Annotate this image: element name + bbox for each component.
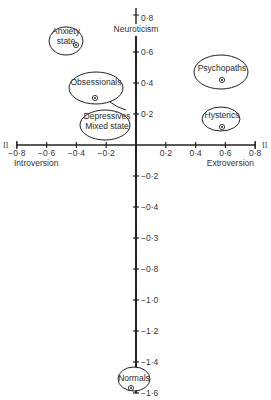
group-label: Obsessionals	[70, 77, 121, 87]
x-axis-negative-title: Introversion	[14, 158, 59, 168]
x-tick-label: 0·2	[160, 148, 173, 158]
group-anxiety-state: Anxietystate	[49, 26, 83, 55]
y-tick-label: 0·2	[141, 109, 154, 119]
x-axis-positive-title: Extroversion	[207, 158, 255, 168]
group-point-dot	[130, 387, 132, 389]
y-tick-label: −0·2	[141, 171, 159, 181]
y-tick-label: −1·0	[141, 295, 159, 305]
group-point-dot	[221, 79, 223, 81]
x-tick-label: 0·6	[219, 148, 232, 158]
group-label: state	[57, 36, 76, 46]
x-tick-label: 0·8	[249, 148, 262, 158]
y-tick-label: 0·6	[141, 47, 154, 57]
y-tick-label: −1·4	[141, 357, 159, 367]
x-tick-label: −0·8	[8, 148, 26, 158]
personality-diagram: −0·8−0·6−0·4−0·20·20·40·60·80·80·60·40·2…	[0, 0, 271, 400]
y-tick-label: 0·8	[141, 13, 154, 23]
group-label: Hysterics	[205, 110, 240, 120]
group-point-dot	[221, 126, 223, 128]
x-tick-label: −0·2	[98, 148, 116, 158]
group-label: Anxiety	[52, 26, 81, 36]
group-normals: Normals	[118, 367, 150, 391]
y-axis-title: Neuroticism	[114, 24, 159, 34]
group-point-dot	[94, 97, 96, 99]
y-tick-label: 0·4	[141, 78, 154, 88]
group-hysterics: Hysterics	[202, 107, 240, 131]
group-psychopaths: Psychopaths	[194, 55, 248, 89]
group-label: Normals	[118, 373, 150, 383]
x-tick-label: 0·4	[189, 148, 202, 158]
group-label: Depressives	[84, 111, 131, 121]
y-tick-label: −0·4	[141, 202, 159, 212]
y-tick-label: −1·6	[141, 388, 159, 398]
group-obsessionals: Obsessionals	[69, 72, 123, 104]
x-tick-label: −0·6	[38, 148, 56, 158]
group-point-dot	[75, 44, 77, 46]
obsessionals-connector	[110, 102, 126, 110]
y-tick-label: −1·2	[141, 326, 159, 336]
group-depressives-mixed-state: DepressivesMixed state	[80, 110, 130, 140]
y-tick-label: −0·8	[141, 264, 159, 274]
x-axis-left-marker: II	[3, 141, 9, 150]
group-label: Psychopaths	[198, 63, 247, 73]
x-axis-right-marker: II	[262, 141, 268, 150]
y-tick-label: −0·3	[141, 233, 159, 243]
group-label: Mixed state	[85, 121, 129, 131]
x-tick-label: −0·4	[68, 148, 86, 158]
